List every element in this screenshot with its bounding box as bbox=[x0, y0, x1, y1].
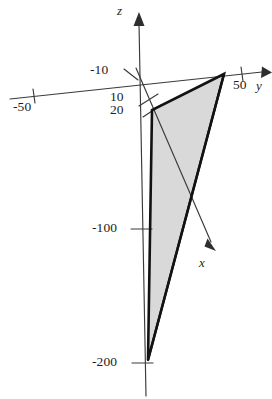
y-tick-label-50: 50 bbox=[233, 78, 247, 92]
coordinate-axes-diagram bbox=[0, 0, 272, 399]
z-tick-neg10 bbox=[124, 69, 138, 80]
z-tick-label-neg200: -200 bbox=[92, 355, 117, 369]
figure-canvas: z y x -50 50 -10 10 20 -100 -200 bbox=[0, 0, 272, 399]
y-axis-label: y bbox=[256, 79, 262, 92]
z-axis-label: z bbox=[117, 4, 122, 17]
y-tick-label-neg50: -50 bbox=[13, 100, 31, 114]
z-tick-label-neg100: -100 bbox=[92, 221, 117, 235]
x-tick-label-20: 20 bbox=[110, 103, 124, 117]
z-axis-line bbox=[139, 23, 146, 396]
x-axis-label: x bbox=[199, 256, 205, 269]
y-axis-arrowhead bbox=[261, 67, 272, 79]
z-axis-arrowhead bbox=[134, 12, 145, 26]
z-tick-label-neg10: -10 bbox=[90, 63, 108, 77]
